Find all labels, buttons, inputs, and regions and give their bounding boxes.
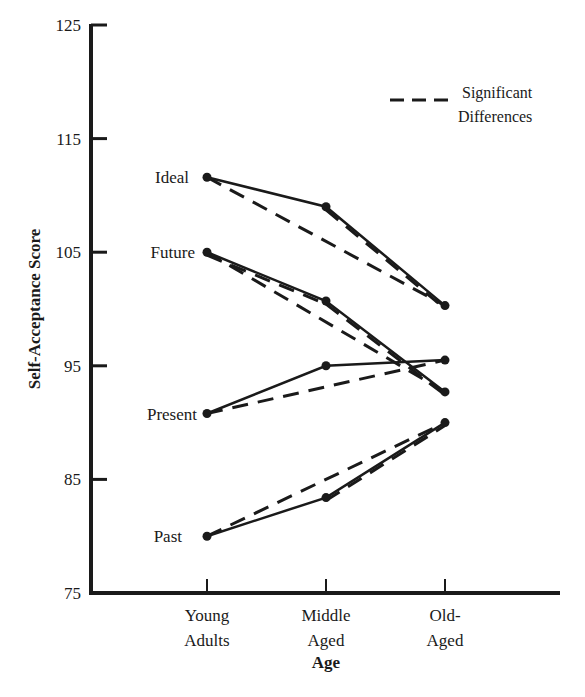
data-point-past bbox=[203, 532, 212, 541]
y-axis-title: Self-Acceptance Score bbox=[25, 228, 44, 389]
significant-difference-line-ideal bbox=[326, 210, 445, 309]
series-labels: IdealFuturePresentPast bbox=[147, 168, 197, 546]
series-label-ideal: Ideal bbox=[155, 168, 189, 187]
significant-difference-line-past bbox=[207, 423, 445, 537]
legend-label: Differences bbox=[458, 108, 532, 125]
x-tick-label: Aged bbox=[427, 631, 464, 650]
x-tick-label: Young bbox=[185, 606, 230, 625]
y-axis: 758595105115125 bbox=[56, 16, 108, 603]
y-tick-label: 85 bbox=[64, 470, 81, 489]
data-point-future bbox=[441, 387, 450, 396]
line-chart: 758595105115125 YoungAdultsMiddleAgedOld… bbox=[0, 0, 585, 697]
significant-difference-line-ideal bbox=[207, 177, 445, 305]
data-point-ideal bbox=[441, 301, 450, 310]
data-point-past bbox=[441, 418, 450, 427]
legend: SignificantDifferences bbox=[390, 84, 533, 125]
y-tick-label: 115 bbox=[56, 130, 81, 149]
data-point-future bbox=[322, 297, 331, 306]
x-tick-label: Aged bbox=[308, 631, 345, 650]
data-point-present bbox=[203, 409, 212, 418]
x-axis: YoungAdultsMiddleAgedOld-Aged bbox=[89, 579, 560, 650]
data-point-future bbox=[203, 248, 212, 257]
data-point-ideal bbox=[203, 173, 212, 182]
x-tick-label: Old- bbox=[429, 606, 461, 625]
x-tick-label: Adults bbox=[184, 631, 229, 650]
data-points bbox=[203, 173, 450, 541]
y-tick-label: 125 bbox=[56, 16, 82, 35]
series-label-past: Past bbox=[154, 527, 183, 546]
series-label-future: Future bbox=[151, 243, 195, 262]
y-tick-label: 75 bbox=[64, 584, 81, 603]
y-tick-label: 95 bbox=[64, 357, 81, 376]
data-point-past bbox=[322, 493, 331, 502]
series-label-present: Present bbox=[147, 405, 197, 424]
significant-difference-line-future bbox=[207, 255, 326, 304]
legend-label: Significant bbox=[462, 84, 533, 102]
x-tick-label: Middle bbox=[301, 606, 350, 625]
data-point-ideal bbox=[322, 202, 331, 211]
data-point-present bbox=[441, 356, 450, 365]
significant-difference-line-future bbox=[207, 252, 445, 392]
series-lines bbox=[207, 177, 445, 536]
data-point-present bbox=[322, 361, 331, 370]
significant-difference-lines bbox=[207, 177, 445, 536]
y-tick-label: 105 bbox=[56, 243, 82, 262]
x-axis-title: Age bbox=[312, 653, 341, 672]
significant-difference-line-past bbox=[326, 426, 445, 501]
